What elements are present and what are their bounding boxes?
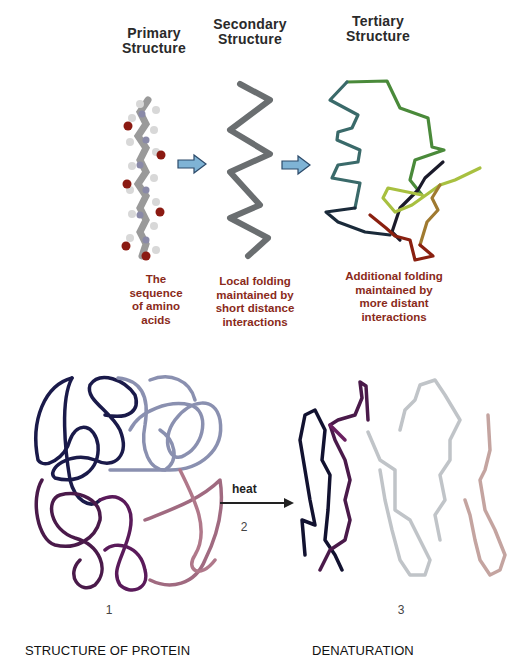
caption-line: The [122, 273, 190, 287]
tertiary-structure-caption: Additional folding maintained by more di… [334, 270, 454, 324]
arrow-right-icon [178, 155, 206, 173]
denatured-strands-icon [300, 380, 505, 575]
title-line: Primary [112, 26, 196, 41]
title-line: Structure [112, 41, 196, 56]
caption-line: interactions [334, 311, 454, 325]
secondary-structure-caption: Local folding maintained by short distan… [200, 275, 310, 329]
step-number-2: 2 [238, 520, 250, 534]
secondary-structure-title: Secondary Structure [198, 17, 302, 47]
caption-line: maintained by [334, 284, 454, 298]
caption-line: Local folding [200, 275, 310, 289]
caption-line: of amino [122, 300, 190, 314]
caption-line: more distant [334, 297, 454, 311]
title-line: Structure [338, 29, 418, 44]
title-line: Structure [198, 32, 302, 47]
structure-of-protein-label: STRUCTURE OF PROTEIN [25, 643, 190, 658]
step-number-1: 1 [103, 603, 115, 617]
caption-line: acids [122, 314, 190, 328]
protein-structure-illustration [0, 0, 526, 668]
tertiary-structure-fold-icon [326, 81, 480, 260]
folded-protein-icon [36, 377, 221, 590]
title-line: Secondary [198, 17, 302, 32]
heat-arrow-icon [220, 498, 294, 508]
caption-line: short distance [200, 302, 310, 316]
caption-line: Additional folding [334, 270, 454, 284]
caption-line: sequence [122, 287, 190, 301]
denaturation-label: DENATURATION [312, 643, 414, 658]
step-number-3: 3 [395, 603, 407, 617]
tertiary-structure-title: Tertiary Structure [338, 14, 418, 44]
primary-structure-title: Primary Structure [112, 26, 196, 56]
caption-line: interactions [200, 316, 310, 330]
arrow-right-icon [282, 156, 310, 174]
heat-label: heat [232, 482, 257, 496]
primary-structure-molecule-icon [122, 100, 166, 261]
caption-line: maintained by [200, 289, 310, 303]
secondary-structure-helix-icon [230, 84, 270, 256]
primary-structure-caption: The sequence of amino acids [122, 273, 190, 327]
title-line: Tertiary [338, 14, 418, 29]
